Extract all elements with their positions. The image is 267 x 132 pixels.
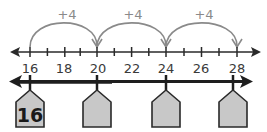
house-answer-3[interactable] (219, 90, 247, 127)
house-16: 16 (16, 90, 44, 127)
jump-arcs (30, 23, 242, 47)
jump-label-2: +4 (123, 7, 142, 22)
tick-label-26: 26 (193, 61, 210, 76)
jump-arc-24-28 (166, 23, 237, 47)
tick-label-16: 16 (22, 61, 39, 76)
tick-label-20: 20 (90, 61, 107, 76)
tick-label-24: 24 (158, 61, 175, 76)
house-answer-2[interactable] (152, 90, 180, 127)
top-number-line (10, 47, 261, 57)
jump-label-1: +4 (57, 7, 76, 22)
jump-arc-16-20 (30, 23, 97, 47)
tick-label-18: 18 (56, 61, 73, 76)
tick-label-28: 28 (229, 61, 246, 76)
jump-arc-20-24 (97, 23, 166, 47)
bottom-number-line (9, 75, 253, 90)
house-label: 16 (17, 104, 43, 126)
house-answer-1[interactable] (83, 90, 111, 127)
jump-label-3: +4 (194, 7, 213, 22)
number-line-diagram: +4 +4 +4 16 18 20 22 24 26 28 (0, 0, 267, 132)
tick-label-22: 22 (124, 61, 141, 76)
